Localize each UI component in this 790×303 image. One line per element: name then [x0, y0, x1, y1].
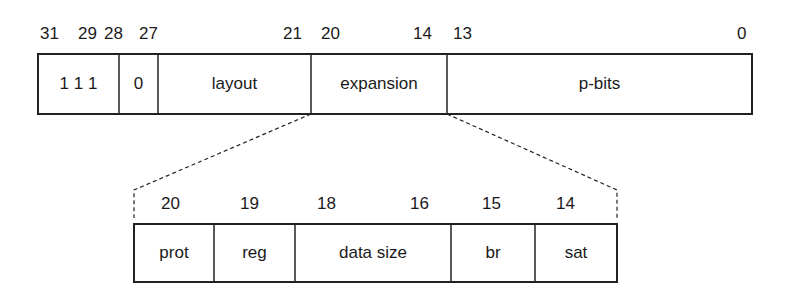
- bit-label: 21: [283, 24, 302, 44]
- field-layout: layout: [158, 54, 311, 114]
- bit-label: 14: [413, 24, 432, 44]
- bit-label: 27: [139, 24, 158, 44]
- bit-label: 0: [737, 24, 746, 44]
- bit-label: 15: [482, 194, 501, 214]
- field-expansion: expansion: [311, 54, 447, 114]
- bit-label: 16: [410, 194, 429, 214]
- bit-label: 29: [78, 24, 97, 44]
- field-fixed-bits: 1 1 1: [38, 54, 119, 114]
- bit-label: 19: [240, 194, 259, 214]
- bit-label: 14: [556, 194, 575, 214]
- field-reg: reg: [214, 224, 295, 282]
- field-sat: sat: [535, 224, 617, 282]
- bit-label: 31: [40, 24, 59, 44]
- bit-label: 18: [317, 194, 336, 214]
- bit-label: 20: [161, 194, 180, 214]
- field-prot: prot: [134, 224, 214, 282]
- bit-label: 28: [104, 24, 123, 44]
- field-data-size: data size: [295, 224, 451, 282]
- bit-label: 20: [321, 24, 340, 44]
- expansion-connector-right: [447, 114, 617, 218]
- field-br: br: [451, 224, 535, 282]
- field-p-bits: p-bits: [447, 54, 752, 114]
- bit-label: 13: [453, 24, 472, 44]
- field-zero-bit: 0: [119, 54, 158, 114]
